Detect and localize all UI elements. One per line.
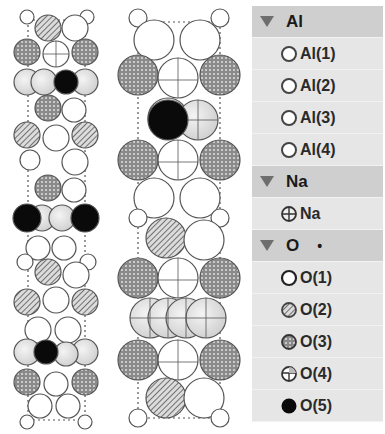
legend-item-o3[interactable]: O(3) xyxy=(252,326,383,358)
dotted-circle-icon xyxy=(280,333,298,351)
open-circle-icon xyxy=(280,109,298,127)
hatched-circle-icon xyxy=(280,301,298,319)
legend-item-al1[interactable]: Al(1) xyxy=(252,38,383,70)
group-label: O xyxy=(286,236,299,256)
atom-legend: Al Al(1) Al(2) Al(3) Al(4) Na Na O • O(1… xyxy=(252,6,383,422)
collapse-triangle-icon[interactable] xyxy=(260,176,274,187)
legend-group-o[interactable]: O • xyxy=(252,230,383,262)
legend-group-al[interactable]: Al xyxy=(252,6,383,38)
group-label: Al xyxy=(286,12,303,32)
group-label: Na xyxy=(286,172,308,192)
group-marker: • xyxy=(317,238,322,254)
legend-item-o2[interactable]: O(2) xyxy=(252,294,383,326)
legend-item-al3[interactable]: Al(3) xyxy=(252,102,383,134)
quartered-circle-icon xyxy=(280,365,298,383)
crystal-structure-wide xyxy=(108,0,246,434)
collapse-triangle-icon[interactable] xyxy=(260,16,274,27)
black-circle-icon xyxy=(280,397,298,415)
white-circle-icon xyxy=(280,269,298,287)
legend-item-al2[interactable]: Al(2) xyxy=(252,70,383,102)
legend-item-o5[interactable]: O(5) xyxy=(252,390,383,422)
legend-item-al4[interactable]: Al(4) xyxy=(252,134,383,166)
collapse-triangle-icon[interactable] xyxy=(260,240,274,251)
crossed-circle-icon xyxy=(280,205,298,223)
open-circle-icon xyxy=(280,141,298,159)
legend-item-na[interactable]: Na xyxy=(252,198,383,230)
legend-item-o4[interactable]: O(4) xyxy=(252,358,383,390)
legend-group-na[interactable]: Na xyxy=(252,166,383,198)
open-circle-icon xyxy=(280,45,298,63)
open-circle-icon xyxy=(280,77,298,95)
crystal-structure-narrow xyxy=(0,0,110,434)
legend-item-o1[interactable]: O(1) xyxy=(252,262,383,294)
